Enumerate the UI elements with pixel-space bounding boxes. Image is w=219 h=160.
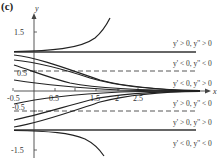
x-tick-label: 0.5 [49,94,59,103]
y-tick-label: -0.5 [12,103,25,112]
y-tick-label: 1.5 [14,28,24,37]
region-label: y' < 0, y'' < 0 [173,59,212,68]
y-axis-arrow-icon [32,13,37,19]
region-label: y' < 0, y'' > 0 [173,79,212,88]
y-axis-name: y [34,4,39,13]
region-label: y' > 0, y'' < 0 [173,99,212,108]
x-tick-label: -0.5 [7,94,20,103]
x-axis-name: x [212,87,217,96]
region-label: y' > 0, y'' > 0 [173,39,212,48]
region-label: y' > 0, y'' > 0 [173,118,212,127]
y-tick-label: 0.5 [17,69,27,78]
y-tick-label: -1.5 [11,146,24,155]
solution-curves-diagram: -0.5 0.5 1.5 2 2.5 1.5 0.5 -0.5 -1.5 x y… [0,0,219,160]
x-axis-arrow-icon [205,89,211,94]
region-label: y' < 0, y'' < 0 [173,139,212,148]
